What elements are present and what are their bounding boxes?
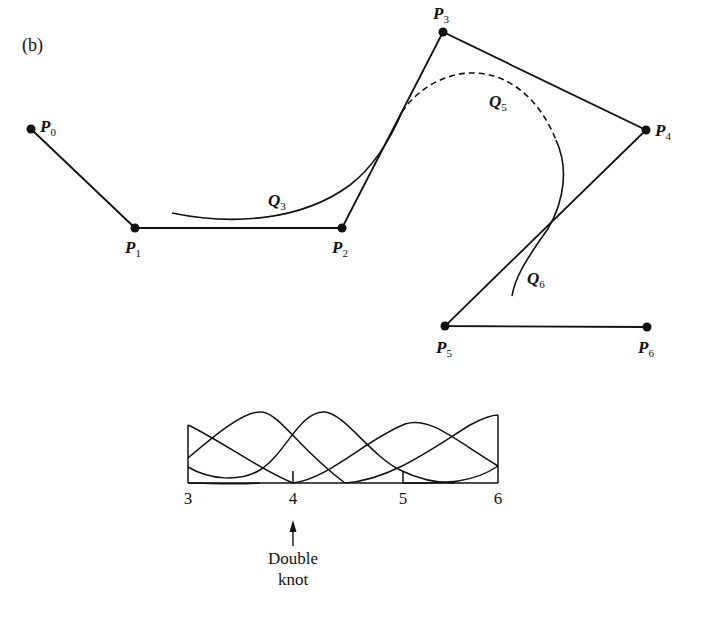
basis-curve-0: [188, 483, 260, 484]
basis-function-plot: [188, 412, 498, 484]
control-point-p4: [642, 126, 651, 135]
arrow-up-icon: [290, 520, 297, 532]
tick-label-3: 3: [184, 489, 193, 508]
control-point-p5: [441, 322, 450, 331]
tick-label-5: 5: [399, 489, 408, 508]
label-q5: Q5: [489, 92, 507, 113]
curve-labels: Q3 Q5 Q6: [268, 92, 545, 290]
control-point-p3: [439, 28, 448, 37]
label-p4: P4: [654, 121, 671, 142]
control-point-p6: [643, 323, 652, 332]
curve-q5-dashed: [402, 73, 556, 140]
control-point-p0: [27, 125, 36, 134]
control-point-markers: [27, 28, 652, 332]
label-p0: P0: [39, 117, 56, 138]
tick-labels: 3 4 5 6: [184, 489, 503, 508]
control-point-p2: [338, 224, 347, 233]
label-p5: P5: [435, 338, 452, 359]
control-point-p1: [131, 224, 140, 233]
panel-label: (b): [22, 35, 43, 56]
label-p1: P1: [124, 238, 141, 259]
basis-curve-6: [403, 466, 498, 483]
basis-curve-4: [293, 422, 498, 483]
double-knot-annotation: Double knot: [268, 520, 318, 589]
annotation-line-2: knot: [278, 570, 309, 589]
annotation-line-1: Double: [268, 549, 318, 568]
label-p2: P2: [331, 238, 348, 259]
tick-label-4: 4: [289, 489, 298, 508]
b-spline-figure: (b) P0 P1 P2 P3 P4 P5 P6 Q3 Q5 Q6: [0, 0, 703, 617]
curve-q3: [172, 112, 402, 219]
basis-curve-5: [345, 415, 498, 483]
label-q3: Q3: [268, 191, 286, 212]
label-p3: P3: [432, 4, 449, 25]
control-polygon: [31, 32, 647, 327]
tick-label-6: 6: [494, 489, 503, 508]
basis-curve-2: [188, 412, 345, 483]
label-q6: Q6: [527, 269, 545, 290]
label-p6: P6: [637, 338, 654, 359]
